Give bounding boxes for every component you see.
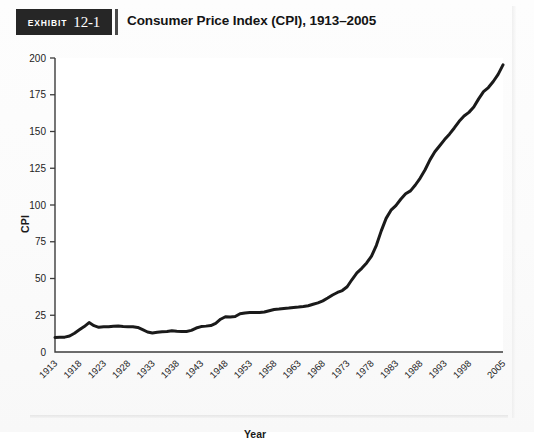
y-axis-tick-labels: 0255075100125150175200	[29, 53, 46, 358]
svg-text:1998: 1998	[451, 358, 474, 381]
svg-text:1953: 1953	[231, 358, 254, 381]
card-bottom-edge	[30, 415, 508, 418]
svg-text:1928: 1928	[110, 358, 133, 381]
x-axis-tick-labels: 1913191819231928193319381943194819531958…	[37, 358, 508, 381]
svg-text:75: 75	[35, 236, 47, 247]
svg-text:200: 200	[29, 53, 46, 64]
page-title: Consumer Price Index (CPI), 1913–2005	[127, 13, 376, 28]
svg-text:50: 50	[35, 273, 47, 284]
svg-text:125: 125	[29, 163, 46, 174]
svg-text:25: 25	[35, 310, 47, 321]
svg-text:1913: 1913	[37, 358, 60, 381]
header-divider	[115, 9, 118, 35]
svg-text:1988: 1988	[402, 358, 425, 381]
exhibit-kicker-label: Exhibit	[28, 17, 67, 28]
svg-text:1943: 1943	[183, 358, 206, 381]
svg-text:1933: 1933	[134, 358, 157, 381]
svg-text:1958: 1958	[256, 358, 279, 381]
svg-text:1993: 1993	[426, 358, 449, 381]
svg-text:1938: 1938	[158, 358, 181, 381]
svg-text:1968: 1968	[305, 358, 328, 381]
exhibit-header: Exhibit 12-1 Consumer Price Index (CPI),…	[16, 9, 498, 36]
svg-text:1963: 1963	[280, 358, 303, 381]
y-axis-title: CPI	[19, 207, 31, 241]
y-axis-tick-marks	[50, 58, 55, 315]
exhibit-number-label: 12-1	[73, 15, 100, 30]
svg-text:2005: 2005	[485, 358, 508, 381]
svg-text:1983: 1983	[378, 358, 401, 381]
x-axis-title: Year	[0, 428, 510, 440]
svg-text:1978: 1978	[353, 358, 376, 381]
svg-text:100: 100	[29, 200, 46, 211]
svg-text:1923: 1923	[85, 358, 108, 381]
svg-text:175: 175	[29, 89, 46, 100]
svg-text:1918: 1918	[61, 358, 84, 381]
svg-text:0: 0	[40, 347, 46, 358]
cpi-line-chart: 0255075100125150175200 19131918192319281…	[0, 40, 520, 415]
svg-text:1948: 1948	[207, 358, 230, 381]
svg-text:150: 150	[29, 126, 46, 137]
svg-text:1973: 1973	[329, 358, 352, 381]
chart-region: 0255075100125150175200 19131918192319281…	[0, 40, 520, 415]
exhibit-badge: Exhibit 12-1	[16, 9, 112, 35]
